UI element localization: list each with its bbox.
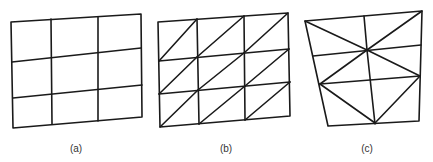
mesh-edge xyxy=(160,90,198,127)
mesh-edge xyxy=(197,19,199,124)
mesh-edge xyxy=(199,86,245,124)
mesh-edge xyxy=(367,11,422,50)
mesh-edge xyxy=(245,49,289,86)
mesh-edge xyxy=(159,57,197,94)
panel-a-label: (a) xyxy=(70,143,82,154)
mesh-edge xyxy=(198,53,244,90)
mesh-edge xyxy=(305,21,367,50)
mesh-figure xyxy=(0,0,433,162)
mesh-edge xyxy=(13,85,142,98)
mesh-edge xyxy=(367,50,420,76)
mesh-edge xyxy=(244,13,288,53)
mesh-edge xyxy=(375,76,420,123)
mesh-edge xyxy=(159,82,290,94)
mesh-edge xyxy=(12,48,141,62)
panel-c-irregular-triangle-mesh xyxy=(305,11,422,126)
panel-b-label: (b) xyxy=(220,143,232,154)
mesh-outline xyxy=(11,14,142,128)
mesh-edge xyxy=(320,84,375,123)
mesh-edge xyxy=(51,19,52,124)
panel-a-quad-mesh xyxy=(11,14,142,128)
panel-b-triangulated-grid xyxy=(158,13,290,127)
mesh-edge xyxy=(197,16,244,57)
mesh-edge xyxy=(364,16,367,50)
panel-c-label: (c) xyxy=(361,143,373,154)
mesh-edge xyxy=(245,82,290,120)
mesh-edge xyxy=(244,16,245,120)
mesh-edge xyxy=(159,19,197,61)
mesh-edge xyxy=(159,49,289,61)
mesh-edge xyxy=(367,50,375,124)
